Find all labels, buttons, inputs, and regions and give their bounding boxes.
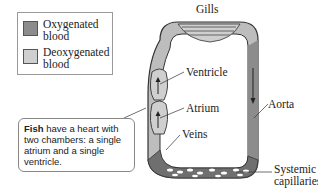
label-ventricle: Ventricle [186,66,228,78]
label-aorta: Aorta [268,98,294,110]
label-capillaries: capillaries [274,175,318,187]
oxygenated-swatch [23,21,38,36]
label-veins: Veins [182,128,208,140]
label-systemic-capillaries: Systemic capillaries [274,163,318,187]
legend-label-deoxygenated: Deoxygenated [43,46,109,58]
label-systemic: Systemic [274,163,318,175]
vessel-loop-inner [160,34,248,168]
label-atrium: Atrium [186,102,219,114]
legend: Oxygenated blood Deoxygenated blood [17,12,113,75]
legend-label-deoxygenated-2: blood [43,58,109,70]
callout-bold: Fish [24,123,44,134]
fish-heart-callout: Fish have a heart with two chambers: a s… [18,118,135,172]
legend-item-deoxygenated: Deoxygenated blood [23,46,109,70]
ventricle-chamber [150,69,167,100]
atrium-chamber [150,101,167,134]
deoxygenated-swatch [23,49,38,64]
legend-label-oxygenated-2: blood [43,30,99,42]
legend-label-oxygenated: Oxygenated [43,18,99,30]
legend-item-oxygenated: Oxygenated blood [23,18,99,42]
label-gills: Gills [196,3,218,15]
